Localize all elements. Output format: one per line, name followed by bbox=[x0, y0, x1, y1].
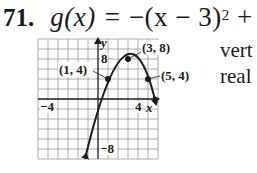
label-point-1-4: (1, 4) bbox=[59, 62, 87, 77]
tick-label-y-neg8: −8 bbox=[100, 141, 114, 156]
label-vertex: (3, 8) bbox=[142, 40, 170, 55]
label-point-5-4: (5, 4) bbox=[161, 68, 189, 83]
tick-label-x-neg4: −4 bbox=[40, 99, 54, 114]
tick-label-y-8: 8 bbox=[101, 51, 108, 66]
x-axis-label: x bbox=[145, 100, 153, 115]
y-axis-label: y bbox=[99, 35, 107, 50]
parabola-graph: (1, 4) (3, 8) (5, 4) −4 4 x 8 y −8 bbox=[0, 0, 257, 173]
tick-label-x-4: 4 bbox=[135, 99, 142, 114]
